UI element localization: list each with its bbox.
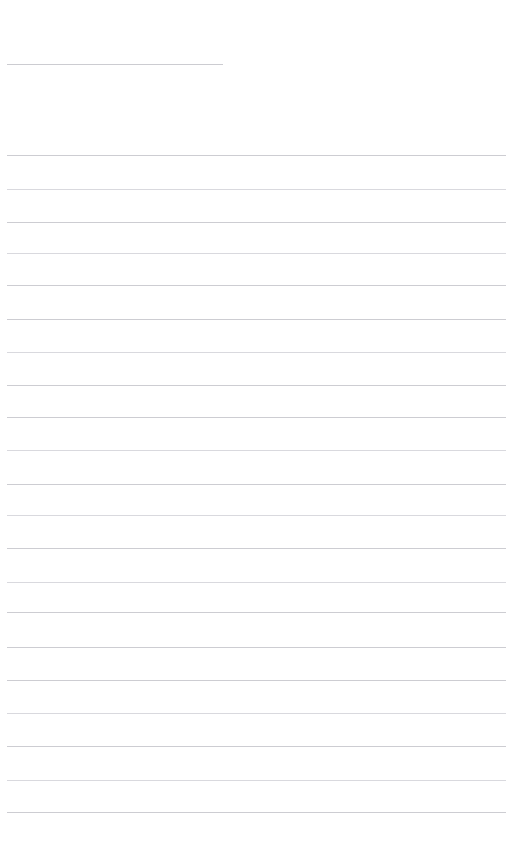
rule-line [7,155,506,156]
rule-line [7,450,506,451]
header-rule [7,64,223,65]
rule-line [7,385,506,386]
rule-line [7,515,506,516]
rule-line [7,319,506,320]
note-page [0,0,529,860]
rule-line [7,352,506,353]
rule-line [7,189,506,190]
rule-line [7,548,506,549]
rule-line [7,746,506,747]
rule-line [7,285,506,286]
rule-line [7,612,506,613]
rule-line [7,780,506,781]
rule-line [7,417,506,418]
rule-line [7,713,506,714]
rule-line [7,680,506,681]
rule-line [7,484,506,485]
rule-line [7,222,506,223]
rule-line [7,647,506,648]
rule-line [7,253,506,254]
rule-line [7,812,506,813]
rule-line [7,582,506,583]
